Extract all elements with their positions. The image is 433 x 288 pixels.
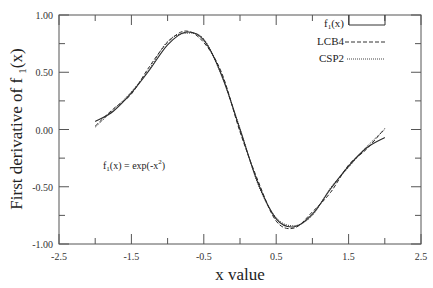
x-tick-label: 0.5	[270, 251, 283, 262]
x-tick-label: 2.5	[415, 251, 428, 262]
function-annotation: f1(x) = exp(-x2)	[103, 158, 165, 173]
y-axis-title: First derivative of f 1(x)	[7, 48, 28, 209]
legend-label: f1(x)	[324, 17, 344, 31]
y-tick-label: 0.00	[36, 125, 54, 136]
legend-label: CSP2	[319, 52, 344, 64]
legend-item-lcb4: LCB4	[317, 35, 385, 47]
legend: f1(x) LCB4 CSP2	[317, 15, 385, 64]
x-tick-label: 1.5	[342, 251, 355, 262]
x-tick-label: -0.5	[196, 251, 212, 262]
legend-line-solid	[349, 15, 385, 25]
y-tick-label: -0.50	[32, 182, 53, 193]
x-tick-label: -2.5	[51, 251, 67, 262]
legend-item-f1: f1(x)	[324, 15, 385, 31]
tick-labels: -2.5-1.5-0.50.51.52.51.000.500.00-0.50-1…	[32, 10, 427, 262]
y-tick-label: 0.50	[36, 67, 54, 78]
y-tick-label: 1.00	[36, 10, 54, 21]
y-tick-label: -1.00	[32, 239, 53, 250]
legend-item-csp2: CSP2	[319, 52, 385, 64]
x-axis-title: x value	[215, 265, 265, 284]
legend-label: LCB4	[317, 35, 344, 47]
x-tick-label: -1.5	[123, 251, 139, 262]
chart: -2.5-1.5-0.50.51.52.51.000.500.00-0.50-1…	[0, 0, 433, 288]
